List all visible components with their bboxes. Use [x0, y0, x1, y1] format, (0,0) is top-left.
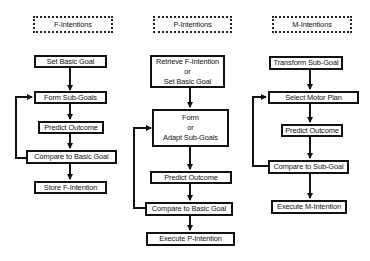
m-transform-sub-goal-box: Transform Sub-Goal: [269, 56, 343, 70]
step-label: Compare to Basic Goal: [34, 152, 108, 162]
p-execute-intention-box: Execute P-Intention: [146, 232, 235, 246]
p-retrieve-or-set-box: Retrieve F-Intention or Set Basic Goal: [150, 55, 225, 88]
m-predict-outcome-box: Predict Outcome: [281, 124, 343, 137]
step-label: Set Basic Goal: [164, 77, 211, 87]
f-store-intention-box: Store F-Intention: [34, 181, 107, 194]
step-label: Predict Outcome: [285, 126, 339, 136]
f-form-sub-goals-box: Form Sub-Goals: [34, 91, 107, 104]
header-label: F-Intentions: [54, 20, 92, 30]
step-label: Execute M-Intention: [277, 202, 341, 212]
step-label: Store F-Intention: [44, 183, 97, 193]
step-label: or: [184, 67, 190, 77]
step-label: Transform Sub-Goal: [274, 58, 339, 68]
step-label: Adapt Sub-Goals: [163, 133, 218, 143]
header-label: M-Intentions: [292, 20, 331, 30]
step-label: Form Sub-Goals: [44, 93, 97, 103]
f-intentions-header: F-Intentions: [33, 16, 113, 33]
p-compare-box: Compare to Basic Goal: [145, 202, 233, 216]
m-compare-box: Compare to Sub-Goal: [268, 160, 349, 174]
step-label: Set Basic Goal: [47, 57, 94, 67]
step-label: Predict Outcome: [164, 173, 218, 183]
step-label: Predict Outcome: [44, 123, 98, 133]
p-form-or-adapt-box: Form or Adapt Sub-Goals: [152, 109, 229, 147]
p-intentions-header: P-Intentions: [153, 16, 232, 33]
p-predict-outcome-box: Predict Outcome: [150, 171, 232, 184]
step-label: Compare to Sub-Goal: [274, 162, 344, 172]
m-select-motor-plan-box: Select Motor Plan: [268, 91, 359, 104]
step-label: Execute P-Intention: [159, 234, 222, 244]
step-label: Select Motor Plan: [285, 93, 342, 103]
f-set-basic-goal-box: Set Basic Goal: [34, 55, 107, 68]
step-label: Form: [182, 113, 199, 123]
m-intentions-header: M-Intentions: [272, 16, 352, 33]
m-execute-intention-box: Execute M-Intention: [271, 200, 347, 214]
header-label: P-Intentions: [173, 20, 211, 30]
f-predict-outcome-box: Predict Outcome: [38, 121, 104, 134]
step-label: or: [187, 123, 193, 133]
step-label: Retrieve F-Intention: [156, 57, 219, 67]
step-label: Compare to Basic Goal: [152, 204, 226, 214]
f-compare-box: Compare to Basic Goal: [26, 150, 117, 164]
